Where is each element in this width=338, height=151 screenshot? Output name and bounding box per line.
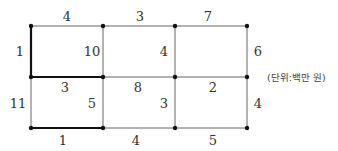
edge-weight-bottom-1: 1 [59, 134, 67, 147]
node-dot [29, 126, 33, 130]
node-dot [101, 75, 105, 79]
edge-weight-top-1: 4 [63, 10, 71, 23]
node-dot [29, 75, 33, 79]
edge-weight-bottom-2: 4 [132, 134, 140, 147]
edge-weight-mid-upper-1: 10 [84, 45, 101, 58]
edge-weight-bottom-3: 5 [209, 134, 217, 147]
node-dot [245, 24, 249, 28]
node-dot [101, 126, 105, 130]
node-dot [245, 126, 249, 130]
edge-weight-mid-lower-1: 5 [88, 97, 96, 110]
edge-weight-middle-3: 2 [209, 81, 217, 94]
node-dot [173, 75, 177, 79]
unit-label: (단위:백만 원) [267, 70, 326, 84]
node-dot [101, 24, 105, 28]
node-dot [173, 24, 177, 28]
edge-weight-top-3: 7 [204, 10, 212, 23]
edge-weight-left-lower: 11 [10, 97, 27, 110]
node-dot [245, 75, 249, 79]
edge-weight-right-upper: 6 [254, 45, 262, 58]
node-dot [173, 126, 177, 130]
edge-weight-middle-1: 3 [61, 81, 69, 94]
edge-weight-top-2: 3 [136, 10, 144, 23]
edge-weight-mid-upper-2: 4 [160, 45, 168, 58]
edge-weight-middle-2: 8 [134, 81, 142, 94]
edge-weight-left-upper: 1 [16, 45, 24, 58]
edge-weight-mid-lower-2: 3 [160, 97, 168, 110]
node-dot [29, 24, 33, 28]
edge-weight-right-lower: 4 [254, 97, 262, 110]
